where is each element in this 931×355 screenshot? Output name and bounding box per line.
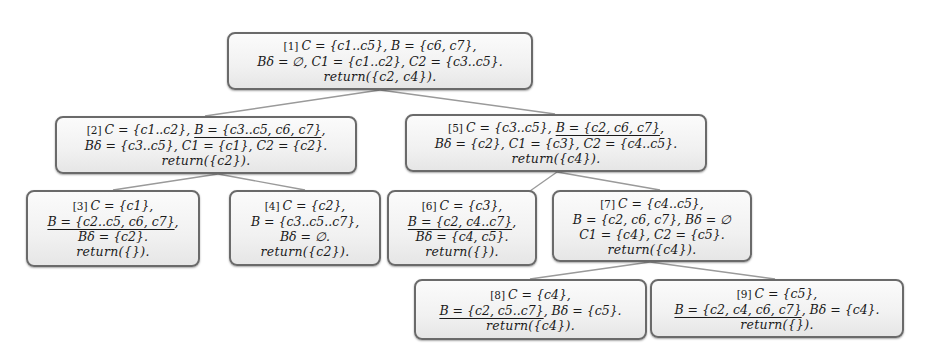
node-text: Bδ = ∅. [280, 229, 330, 244]
node-line: return({c4}). [608, 242, 697, 257]
node-text: C = {c4..c5}, [618, 196, 704, 211]
edge-2-3 [113, 174, 218, 190]
node-text: B = {c2, c6, c7}, Bδ = ∅ [573, 212, 731, 227]
node-text: return({c4}). [512, 151, 601, 166]
node-line: return({c4}). [512, 151, 601, 166]
edge-1-2 [205, 90, 380, 116]
node-line: B = {c3..c5..c7}, [251, 214, 359, 229]
edge-5-7 [557, 172, 660, 190]
node-text: , [175, 214, 179, 229]
node-text: , Bδ = {c4}. [802, 302, 880, 317]
node-text: , Bδ = {c5}. [544, 303, 622, 318]
node-text: Bδ = ∅, C1 = {c1..c2}, C2 = {c3..c5}. [257, 54, 502, 69]
underlined-term: B = {c2, c4, c6, c7} [674, 302, 801, 317]
node-line: [4]C = {c2}, [265, 198, 346, 214]
node-index: [5] [448, 122, 463, 134]
node-line: [1]C = {c1..c5}, B = {c6, c7}, [284, 38, 477, 54]
tree-node-2: [2]C = {c1..c2}, B = {c3..c5, c6, c7},Bδ… [55, 116, 357, 174]
node-line: Bδ = {c3..c5}, C1 = {c1}, C2 = {c2}. [85, 138, 327, 153]
node-line: B = {c2..c5, c6, c7}, [47, 214, 178, 229]
node-text: , [660, 120, 664, 135]
node-text: C = {c1}, [91, 198, 154, 213]
node-line: C1 = {c4}, C2 = {c5}. [579, 227, 725, 242]
node-line: [8]C = {c4}, [490, 287, 571, 303]
node-line: Bδ = {c2}. [78, 229, 148, 244]
node-text: return({c2}). [162, 153, 251, 168]
node-text: C = {c1..c2}, [105, 122, 195, 137]
edge-2-4 [218, 174, 305, 190]
underlined-term: B = {c2, c4..c7} [408, 214, 512, 229]
node-index: [1] [284, 40, 299, 52]
node-line: B = {c2, c4..c7}, [408, 214, 516, 229]
tree-node-3: [3]C = {c1},B = {c2..c5, c6, c7},Bδ = {c… [26, 190, 200, 267]
node-text: Bδ = {c2}. [78, 229, 148, 244]
node-line: [2]C = {c1..c2}, B = {c3..c5, c6, c7}, [87, 122, 326, 138]
node-text: C = {c3}, [440, 198, 503, 213]
node-index: [4] [265, 200, 280, 212]
node-text: return({}). [425, 244, 498, 259]
node-line: Bδ = {c2}, C1 = {c3}, C2 = {c4..c5}. [435, 136, 677, 151]
tree-node-6: [6]C = {c3},B = {c2, c4..c7},Bδ = {c4, c… [387, 190, 537, 266]
node-index: [7] [600, 198, 615, 210]
tree-node-5: [5]C = {c3..c5}, B = {c2, c6, c7},Bδ = {… [405, 114, 707, 172]
node-text: return({c2, c4}). [323, 69, 436, 84]
node-line: return({}). [76, 244, 149, 259]
node-line: return({}). [425, 244, 498, 259]
node-line: [7]C = {c4..c5}, [600, 196, 704, 212]
node-text: C1 = {c4}, C2 = {c5}. [579, 227, 725, 242]
tree-node-7: [7]C = {c4..c5},B = {c2, c6, c7}, Bδ = ∅… [552, 190, 752, 262]
node-text: Bδ = {c2}, C1 = {c3}, C2 = {c4..c5}. [435, 136, 677, 151]
edge-7-9 [650, 262, 775, 279]
node-text: , [512, 214, 516, 229]
node-text: Bδ = {c4, c5}. [416, 229, 509, 244]
node-text: C = {c3..c5}, [466, 120, 556, 135]
node-text: return({}). [740, 317, 813, 332]
node-text: return({c2}). [261, 244, 350, 259]
node-line: [9]C = {c5}, [737, 286, 818, 302]
node-line: [6]C = {c3}, [422, 198, 503, 214]
node-text: B = {c3..c5..c7}, [251, 214, 359, 229]
node-text: C = {c1..c5}, B = {c6, c7}, [301, 38, 476, 53]
underlined-term: B = {c3..c5, c6, c7} [194, 122, 321, 137]
node-text: Bδ = {c3..c5}, C1 = {c1}, C2 = {c2}. [85, 138, 327, 153]
node-line: return({}). [740, 317, 813, 332]
node-line: [5]C = {c3..c5}, B = {c2, c6, c7}, [448, 120, 664, 136]
node-line: B = {c2, c6, c7}, Bδ = ∅ [573, 212, 731, 227]
node-index: [8] [490, 289, 505, 301]
underlined-term: B = {c2..c5, c6, c7} [47, 214, 174, 229]
node-line: Bδ = {c4, c5}. [416, 229, 509, 244]
node-line: return({c2}). [261, 244, 350, 259]
node-line: return({c2}). [162, 153, 251, 168]
edge-7-8 [530, 262, 650, 279]
node-index: [9] [737, 288, 752, 300]
node-text: return({}). [76, 244, 149, 259]
node-line: return({c4}). [486, 318, 575, 333]
node-text: C = {c2}, [283, 198, 346, 213]
node-line: return({c2, c4}). [323, 69, 436, 84]
node-line: B = {c2, c5..c7}, Bδ = {c5}. [439, 303, 621, 318]
node-text: return({c4}). [608, 242, 697, 257]
tree-node-1: [1]C = {c1..c5}, B = {c6, c7},Bδ = ∅, C1… [227, 32, 533, 90]
node-index: [3] [73, 200, 88, 212]
node-line: Bδ = ∅, C1 = {c1..c2}, C2 = {c3..c5}. [257, 54, 502, 69]
node-line: [3]C = {c1}, [73, 198, 154, 214]
node-text: C = {c4}, [508, 287, 571, 302]
tree-node-4: [4]C = {c2},B = {c3..c5..c7},Bδ = ∅.retu… [229, 190, 381, 266]
edge-1-5 [380, 90, 555, 114]
node-text: return({c4}). [486, 318, 575, 333]
node-index: [6] [422, 200, 437, 212]
node-text: , [321, 122, 325, 137]
tree-node-9: [9]C = {c5},B = {c2, c4, c6, c7}, Bδ = {… [650, 279, 904, 338]
node-line: B = {c2, c4, c6, c7}, Bδ = {c4}. [674, 302, 879, 317]
underlined-term: B = {c2, c5..c7} [439, 303, 543, 318]
underlined-term: B = {c2, c6, c7} [556, 120, 660, 135]
tree-node-8: [8]C = {c4},B = {c2, c5..c7}, Bδ = {c5}.… [414, 279, 647, 340]
node-index: [2] [87, 124, 102, 136]
node-text: C = {c5}, [755, 286, 818, 301]
node-line: Bδ = ∅. [280, 229, 330, 244]
